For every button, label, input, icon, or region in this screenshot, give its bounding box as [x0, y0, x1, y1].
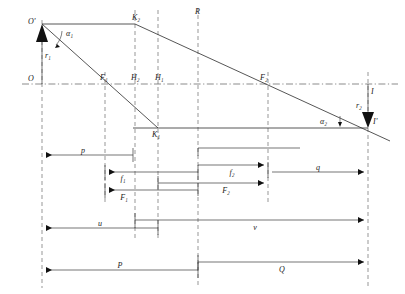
dim-label-f2: f₂ [229, 168, 234, 177]
dim-label-f1: f₁ [120, 174, 125, 183]
dim-label-q: q [316, 163, 320, 172]
label-image-top: I [370, 87, 374, 96]
optics-diagram-canvas: O' O K₂ K₁ F₁ F₂ H₂ H₁ R I I' r₁ r₂ α₁ α… [0, 0, 405, 294]
label-object-axis: O [28, 74, 34, 83]
label-angle-alpha2: α₂ [320, 117, 327, 126]
optics-diagram-root: O' O K₂ K₁ F₁ F₂ H₂ H₁ R I I' r₁ r₂ α₁ α… [0, 0, 405, 294]
label-reference-plane: R [194, 7, 200, 16]
label-focal-front: F₁ [99, 73, 108, 82]
label-principal-h2: H₂ [130, 73, 140, 82]
label-image-axis: I' [372, 117, 378, 126]
label-ray-node-lower: K₁ [151, 130, 160, 139]
angle-arrowhead-alpha2 [338, 122, 342, 127]
label-object-height: r₁ [45, 51, 51, 60]
label-angle-alpha1: α₁ [66, 29, 73, 38]
label-focal-back: F₂ [259, 73, 268, 82]
label-ray-node-upper: K₂ [131, 13, 140, 22]
dim-label-F1: F₁ [119, 193, 128, 202]
dim-label-P: P [117, 261, 123, 270]
angle-arc-alpha1 [56, 31, 62, 45]
angle-arrowhead-alpha1 [55, 44, 60, 48]
dim-label-u: u [98, 219, 102, 228]
object-arrowhead [36, 24, 48, 42]
dim-label-v: v [253, 223, 257, 232]
dim-label-p: p [80, 146, 85, 155]
dim-label-Q: Q [279, 265, 285, 274]
ray-parallel-outgoing [135, 24, 390, 141]
dim-label-F2: F₂ [221, 186, 230, 195]
label-principal-h1: H₁ [154, 73, 164, 82]
label-object-top: O' [28, 17, 36, 26]
label-image-height: r₂ [356, 101, 362, 110]
